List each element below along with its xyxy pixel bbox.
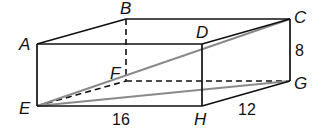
vertex-label-B: B (120, 0, 131, 18)
rectangular-prism-diagram: A B C D E F G H 16 12 8 (0, 0, 326, 128)
diagonals (37, 19, 290, 106)
dimension-width: 12 (238, 101, 256, 118)
vertex-label-D: D (196, 23, 208, 42)
vertex-label-G: G (294, 74, 307, 93)
dimension-length: 16 (112, 111, 130, 128)
dimension-height: 8 (295, 42, 304, 59)
vertex-label-A: A (18, 35, 30, 54)
vertex-label-F: F (110, 64, 122, 83)
edge-CD (202, 19, 290, 44)
edge-AB (37, 19, 126, 44)
vertex-label-E: E (19, 99, 31, 118)
vertex-label-H: H (194, 110, 207, 128)
vertex-label-C: C (294, 8, 307, 27)
